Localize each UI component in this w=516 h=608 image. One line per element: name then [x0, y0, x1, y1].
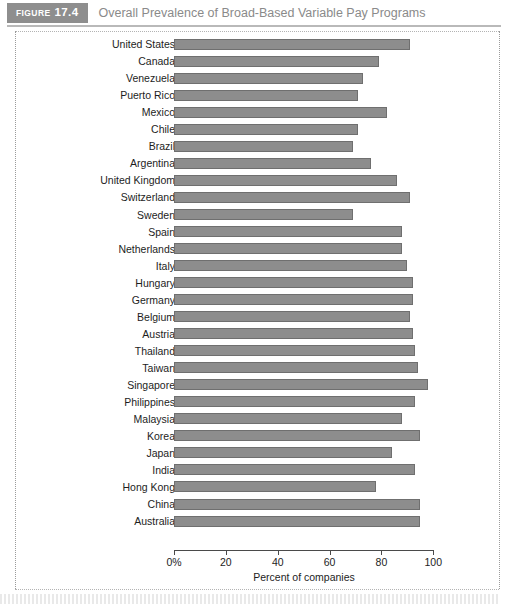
category-label: India	[152, 462, 175, 478]
bar	[174, 345, 415, 356]
category-label: United States	[112, 36, 175, 52]
bar	[174, 243, 402, 254]
category-label: Korea	[147, 428, 175, 444]
category-label: Brazil	[149, 138, 175, 154]
bar	[174, 141, 353, 152]
figure-title: Overall Prevalence of Broad-Based Variab…	[99, 6, 426, 20]
category-label: Argentina	[130, 155, 175, 171]
bar	[174, 464, 415, 475]
bar	[174, 56, 379, 67]
bar	[174, 447, 392, 458]
bar	[174, 192, 410, 203]
category-label: Hungary	[135, 275, 175, 291]
bar-row: Hungary	[0, 274, 516, 290]
category-label: Spain	[148, 224, 175, 240]
figure-number-label: 17.4	[55, 7, 79, 19]
bar	[174, 481, 376, 492]
category-label: Italy	[156, 258, 175, 274]
figure-word-label: FIGURE	[16, 9, 51, 18]
bar	[174, 413, 402, 424]
bar-row: Brazil	[0, 138, 516, 154]
x-axis-tick	[278, 550, 279, 555]
bar-row: Australia	[0, 513, 516, 529]
bar	[174, 90, 358, 101]
x-axis-tick	[330, 550, 331, 555]
bar-row: Canada	[0, 53, 516, 69]
bar-row: Venezuela	[0, 70, 516, 86]
bar-row: Philippines	[0, 394, 516, 410]
x-axis-tick-label: 80	[376, 556, 388, 568]
bar	[174, 430, 420, 441]
category-label: Belgium	[137, 309, 175, 325]
frame-bottom-border	[15, 589, 499, 590]
category-label: Malaysia	[134, 411, 175, 427]
x-axis-tick	[381, 550, 382, 555]
bar	[174, 294, 413, 305]
bar-row: Hong Kong	[0, 479, 516, 495]
category-label: Puerto Rico	[120, 87, 175, 103]
category-label: Taiwan	[142, 360, 175, 376]
category-label: Japan	[146, 445, 175, 461]
bar-row: Thailand	[0, 343, 516, 359]
bar-row: United Kingdom	[0, 172, 516, 188]
category-label: Canada	[138, 53, 175, 69]
bar	[174, 107, 387, 118]
bar-row: India	[0, 462, 516, 478]
x-axis-tick-label: 0%	[166, 556, 181, 568]
category-label: Germany	[132, 292, 175, 308]
bar-row: Puerto Rico	[0, 87, 516, 103]
bar-row: Singapore	[0, 377, 516, 393]
category-label: Venezuela	[126, 70, 175, 86]
x-axis-line	[174, 550, 434, 551]
bar-row: Switzerland	[0, 189, 516, 205]
footer-band	[0, 594, 500, 604]
bar-row: Germany	[0, 291, 516, 307]
category-label: Netherlands	[118, 241, 175, 257]
bar	[174, 158, 371, 169]
bar	[174, 209, 353, 220]
category-label: China	[148, 496, 175, 512]
bar-row: Malaysia	[0, 411, 516, 427]
bar-row: Italy	[0, 257, 516, 273]
bar-row: Belgium	[0, 308, 516, 324]
bar	[174, 73, 363, 84]
bar	[174, 516, 420, 527]
category-label: Chile	[151, 121, 175, 137]
category-label: Mexico	[142, 104, 175, 120]
bar-row: Argentina	[0, 155, 516, 171]
bar-row: Spain	[0, 223, 516, 239]
bar-row: United States	[0, 36, 516, 52]
category-label: Thailand	[135, 343, 175, 359]
category-label: Switzerland	[121, 189, 175, 205]
x-axis-title: Percent of companies	[174, 571, 434, 583]
x-axis-tick	[174, 550, 175, 555]
bar-chart-plot: United StatesCanadaVenezuelaPuerto RicoM…	[0, 31, 516, 551]
x-axis-tick-label: 40	[272, 556, 284, 568]
category-label: Singapore	[127, 377, 175, 393]
bar	[174, 362, 418, 373]
category-label: Philippines	[124, 394, 175, 410]
bar	[174, 124, 358, 135]
bar	[174, 226, 402, 237]
bar-row: Taiwan	[0, 360, 516, 376]
bar-row: Mexico	[0, 104, 516, 120]
bar-row: Chile	[0, 121, 516, 137]
x-axis-tick-label: 100	[425, 556, 443, 568]
bar	[174, 175, 397, 186]
header-divider	[7, 25, 501, 27]
bar-row: Netherlands	[0, 240, 516, 256]
figure-header: FIGURE 17.4 Overall Prevalence of Broad-…	[0, 0, 516, 26]
category-label: Hong Kong	[122, 479, 175, 495]
category-label: Sweden	[137, 207, 175, 223]
bar	[174, 499, 420, 510]
category-label: Australia	[134, 513, 175, 529]
category-label: United Kingdom	[100, 172, 175, 188]
bar	[174, 277, 413, 288]
bar	[174, 39, 410, 50]
bar-row: Sweden	[0, 206, 516, 222]
bar-row: China	[0, 496, 516, 512]
x-axis-tick-label: 20	[220, 556, 232, 568]
bar	[174, 260, 407, 271]
bar-row: Austria	[0, 326, 516, 342]
bar	[174, 396, 415, 407]
